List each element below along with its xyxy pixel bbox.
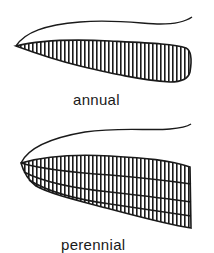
annual-leaf	[10, 17, 200, 90]
perennial-leaf	[15, 124, 200, 235]
perennial-label: perennial	[61, 236, 125, 253]
illustration: annual perennial	[0, 0, 214, 253]
annual-label: annual	[73, 91, 120, 108]
leaf-comparison-drawing	[0, 0, 214, 253]
